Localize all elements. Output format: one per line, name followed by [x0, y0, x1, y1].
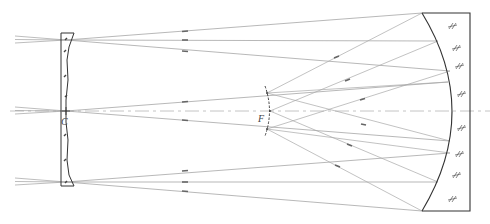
schmidt-diagram: [0, 0, 490, 224]
spherical-mirror: [422, 13, 470, 211]
corrector-plate: [61, 33, 74, 186]
center-mark-icon: [62, 107, 70, 115]
rays-to-mirror: [66, 13, 450, 211]
reflected-rays: [267, 13, 450, 211]
mirror-hatching: [448, 23, 466, 202]
label-c: C: [61, 116, 68, 127]
incoming-rays: [15, 36, 66, 185]
label-f: F: [258, 113, 264, 124]
